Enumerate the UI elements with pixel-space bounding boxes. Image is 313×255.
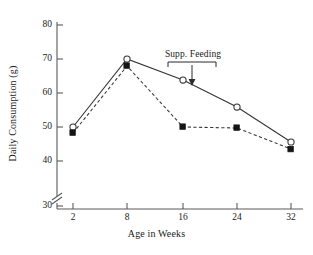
supp-feeding-annotation-label: Supp. Feeding bbox=[147, 49, 239, 59]
x-tick-label-32: 32 bbox=[279, 213, 303, 223]
data-point-supplemented-2 bbox=[70, 130, 75, 135]
data-point-supplemented-16 bbox=[180, 124, 185, 129]
x-tick-label-2: 2 bbox=[61, 213, 85, 223]
y-tick-label-40: 40 bbox=[24, 156, 52, 166]
data-point-control-16 bbox=[180, 77, 186, 83]
data-point-control-2 bbox=[70, 124, 76, 130]
x-tick-label-24: 24 bbox=[225, 213, 249, 223]
x-axis-label: Age in Weeks bbox=[0, 228, 313, 239]
y-tick-label-50: 50 bbox=[24, 122, 52, 132]
y-tick-label-80: 80 bbox=[24, 20, 52, 30]
data-point-supplemented-32 bbox=[288, 146, 293, 151]
supp-feeding-arrow-head bbox=[189, 79, 196, 86]
y-axis-label: Daily Consumption (g) bbox=[7, 39, 18, 189]
data-point-supplemented-24 bbox=[234, 125, 239, 130]
data-point-control-24 bbox=[234, 104, 240, 110]
x-tick-label-8: 8 bbox=[115, 213, 139, 223]
y-tick-label-60: 60 bbox=[24, 88, 52, 98]
chart-figure: 80 70 60 50 40 30 2 8 16 24 32 Age in We… bbox=[0, 0, 313, 255]
y-tick-label-70: 70 bbox=[24, 54, 52, 64]
data-point-control-8 bbox=[124, 56, 130, 62]
data-point-control-32 bbox=[288, 139, 294, 145]
y-axis-break-slash-2 bbox=[52, 197, 62, 204]
data-point-supplemented-8 bbox=[124, 63, 129, 68]
x-tick-label-16: 16 bbox=[171, 213, 195, 223]
y-tick-label-30: 30 bbox=[24, 201, 52, 211]
